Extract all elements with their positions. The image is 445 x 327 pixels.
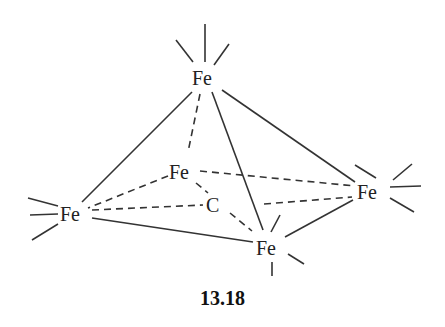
co-right-1 — [355, 165, 376, 178]
co-bottom-1 — [271, 215, 280, 232]
co-left-3 — [32, 224, 58, 240]
atom-fe-left: Fe — [60, 203, 80, 225]
fe5c-cluster-diagram: Fe Fe Fe Fe Fe C 13.18 — [0, 0, 445, 327]
bond-left-bottom — [92, 218, 253, 242]
bond-left-carbon — [92, 205, 203, 210]
atom-fe-bottom: Fe — [256, 237, 276, 259]
figure-label: 13.18 — [200, 287, 245, 309]
bond-bottom-right — [285, 200, 353, 237]
bond-carbon-bottom — [230, 213, 252, 231]
bond-carbon-right — [264, 197, 352, 204]
bond-top-left — [82, 92, 192, 202]
bond-top-right — [222, 90, 355, 182]
bond-back-carbon — [196, 183, 208, 193]
co-top-2 — [176, 40, 193, 62]
co-bottom-2 — [288, 254, 304, 264]
atom-fe-top: Fe — [192, 67, 212, 89]
bond-back-right — [200, 171, 355, 186]
bond-back-left — [88, 176, 168, 208]
co-right-4 — [390, 198, 414, 212]
co-left-1 — [28, 198, 58, 206]
atom-fe-back: Fe — [169, 161, 189, 183]
co-right-3 — [390, 186, 421, 187]
co-top-3 — [214, 44, 229, 65]
bond-top-back — [188, 94, 200, 152]
solid-bonds — [82, 90, 355, 242]
atom-carbon: C — [206, 194, 219, 216]
atom-fe-right: Fe — [357, 181, 377, 203]
co-right-2 — [393, 164, 412, 180]
dashed-bonds — [88, 94, 355, 231]
co-left-2 — [30, 214, 58, 215]
atom-labels: Fe Fe Fe Fe Fe C — [60, 67, 377, 259]
